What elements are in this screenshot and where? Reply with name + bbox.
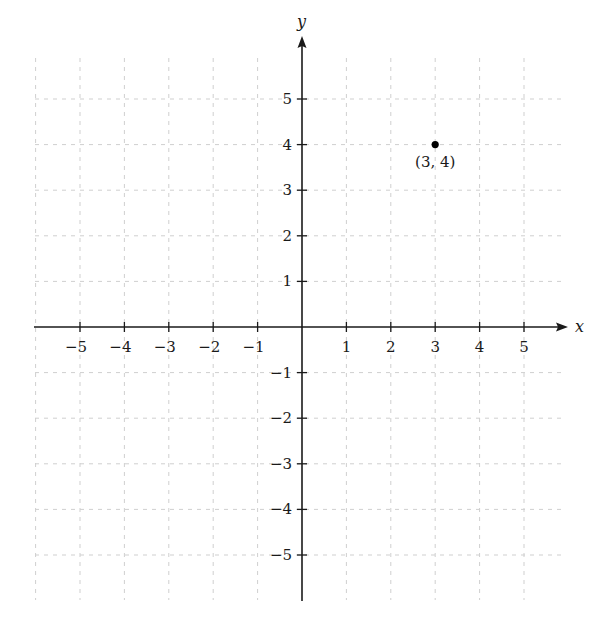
x-tick-label: 1 xyxy=(342,338,352,356)
y-tick-label: 2 xyxy=(282,227,292,245)
x-tick-label: −4 xyxy=(109,338,131,356)
y-axis-label: y xyxy=(296,12,307,31)
data-points: (3, 4) xyxy=(415,141,455,171)
y-tick-label: −1 xyxy=(270,364,292,382)
x-tick-label: 4 xyxy=(475,338,485,356)
y-tick-label: −5 xyxy=(270,546,292,564)
axes xyxy=(34,36,568,601)
x-tick-label: −2 xyxy=(198,338,220,356)
y-tick-label: 5 xyxy=(282,90,292,108)
data-point xyxy=(432,141,439,148)
y-tick-label: −3 xyxy=(270,455,292,473)
y-tick-label: −4 xyxy=(270,500,292,518)
y-tick-label: −2 xyxy=(270,409,292,427)
x-tick-label: 3 xyxy=(430,338,440,356)
x-tick-label: −1 xyxy=(243,338,265,356)
x-axis-label: x xyxy=(575,317,584,336)
y-tick-label: 1 xyxy=(282,272,292,290)
x-tick-label: 5 xyxy=(519,338,529,356)
y-tick-label: 4 xyxy=(282,136,292,154)
data-point-label: (3, 4) xyxy=(415,153,455,171)
x-tick-label: −3 xyxy=(154,338,176,356)
grid-lines xyxy=(35,58,562,600)
x-tick-label: 2 xyxy=(386,338,396,356)
coordinate-plane: −5−4−3−2−112345−5−4−3−2−112345 (3, 4) x … xyxy=(0,0,614,634)
x-tick-label: −5 xyxy=(65,338,87,356)
y-tick-label: 3 xyxy=(282,181,292,199)
